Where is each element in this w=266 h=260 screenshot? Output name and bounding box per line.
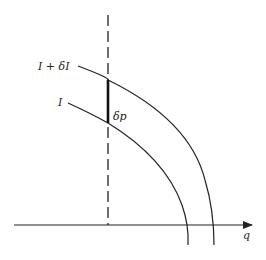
indifference-curves-diagram: I + δI I δp q (0, 0, 266, 260)
inner-curve-label: I (57, 96, 63, 109)
outer-curve-label: I + δI (37, 60, 70, 73)
outer-curve (78, 66, 214, 245)
inner-curve (68, 103, 188, 245)
delta-p-label: δp (113, 110, 127, 123)
q-axis-label: q (243, 229, 250, 242)
